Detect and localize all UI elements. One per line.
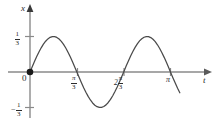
ytick-label-positive-third: 1 3 bbox=[14, 31, 20, 47]
fraction-denominator: 3 bbox=[71, 84, 77, 92]
fraction-two-pi-over-3: 2 π 3 bbox=[114, 75, 123, 91]
xtick-label-two-pi-over-3: 2 π 3 bbox=[114, 75, 123, 91]
ytick-label-negative-third: − 1 3 bbox=[11, 102, 22, 118]
fraction-denominator: 3 bbox=[15, 40, 21, 48]
fraction-body: π 3 bbox=[71, 75, 77, 91]
fraction-body: 1 3 bbox=[15, 31, 21, 47]
origin-label: 0 bbox=[22, 74, 27, 83]
x-axis-arrowhead bbox=[27, 4, 34, 12]
fraction-body: π 3 bbox=[118, 75, 124, 91]
fraction-one-third: 1 3 bbox=[14, 31, 20, 47]
plot-canvas bbox=[0, 0, 214, 127]
origin-dot-marker bbox=[27, 69, 34, 76]
x-axis-label: x bbox=[21, 4, 25, 13]
sine-curve-figure: x t 0 1 3 − 1 3 π 3 bbox=[0, 0, 214, 127]
xtick-label-pi-over-3: π 3 bbox=[71, 75, 77, 91]
fraction-denominator: 3 bbox=[16, 111, 22, 119]
fraction-negative-one-third: − 1 3 bbox=[11, 102, 22, 118]
t-axis-label: t bbox=[203, 76, 206, 85]
fraction-body: 1 3 bbox=[16, 102, 22, 118]
fraction-sign: − bbox=[11, 106, 16, 114]
xtick-label-pi: π bbox=[166, 76, 170, 84]
fraction-pi-over-3: π 3 bbox=[71, 75, 77, 91]
fraction-denominator: 3 bbox=[118, 84, 124, 92]
